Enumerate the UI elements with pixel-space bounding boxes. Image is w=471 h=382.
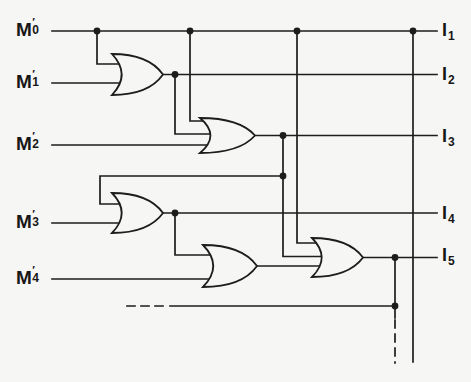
junction-dot bbox=[280, 132, 287, 139]
input-letter: M bbox=[16, 20, 31, 39]
input-label-m2: M ′ 2 bbox=[16, 134, 39, 153]
input-label-m0: M ′ 0 bbox=[16, 20, 39, 39]
input-label-m4: M ′ 4 bbox=[16, 268, 39, 287]
output-label-i5: I 5 bbox=[442, 246, 455, 267]
input-subscript: 2 bbox=[32, 138, 39, 150]
junction-dot bbox=[280, 173, 287, 180]
junction-dot bbox=[294, 28, 301, 35]
junction-dot bbox=[94, 28, 101, 35]
or-gate-3 bbox=[112, 193, 163, 233]
junction-dot bbox=[392, 303, 399, 310]
junction-dot bbox=[172, 210, 179, 217]
junction-dot bbox=[410, 28, 417, 35]
input-subscript: 1 bbox=[32, 76, 39, 88]
wire-m0-tap-to-gate5 bbox=[297, 31, 327, 243]
input-label-m3: M ′ 3 bbox=[16, 212, 39, 231]
input-subscript: 0 bbox=[32, 24, 39, 36]
input-letter: M bbox=[16, 212, 31, 231]
input-label-m1: M ′ 1 bbox=[16, 72, 39, 91]
output-label-i3: I 3 bbox=[442, 127, 455, 148]
output-letter: I bbox=[442, 246, 447, 264]
output-subscript: 4 bbox=[448, 213, 455, 225]
output-label-i4: I 4 bbox=[442, 204, 455, 225]
junction-dot bbox=[392, 254, 399, 261]
input-letter: M bbox=[16, 268, 31, 287]
output-subscript: 1 bbox=[448, 30, 455, 42]
output-letter: I bbox=[442, 65, 447, 83]
or-gate-1 bbox=[112, 54, 163, 95]
output-subscript: 5 bbox=[448, 255, 455, 267]
output-label-i2: I 2 bbox=[442, 65, 455, 86]
junction-dot bbox=[187, 28, 194, 35]
or-gate-5 bbox=[312, 238, 363, 277]
output-letter: I bbox=[442, 204, 447, 222]
or-gate-4 bbox=[203, 245, 257, 287]
circuit-canvas bbox=[0, 0, 471, 382]
input-letter: M bbox=[16, 72, 31, 91]
output-subscript: 3 bbox=[448, 136, 455, 148]
output-label-i1: I 1 bbox=[442, 21, 455, 42]
input-subscript: 3 bbox=[32, 216, 39, 228]
input-subscript: 4 bbox=[32, 272, 39, 284]
output-letter: I bbox=[442, 127, 447, 145]
input-letter: M bbox=[16, 134, 31, 153]
logic-diagram: M ′ 0 M ′ 1 M ′ 2 M ′ 3 M ′ 4 I bbox=[0, 0, 471, 382]
output-subscript: 2 bbox=[448, 74, 455, 86]
or-gate-2 bbox=[200, 118, 255, 153]
output-letter: I bbox=[442, 21, 447, 39]
wire-m0-tap-to-gate2 bbox=[190, 31, 215, 121]
junction-dot bbox=[172, 71, 179, 78]
